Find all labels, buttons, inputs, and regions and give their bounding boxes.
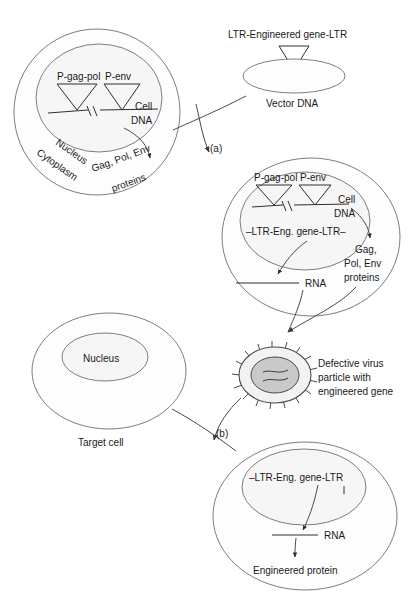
producer-proteins-line2: Pol, Env — [344, 258, 381, 269]
virus-caption-line1: Defective virus — [318, 358, 384, 369]
producer-cell-nucleus — [240, 172, 370, 270]
vector-dna-label: Vector DNA — [266, 98, 319, 109]
producer-proteins-line3: proteins — [344, 272, 380, 283]
target-nucleus-label: Nucleus — [83, 353, 119, 364]
process-diagram-svg: P-gag-pol P-env Cell DNA Nucleus Cytopla… — [0, 0, 411, 594]
cell-dna-label-line1: Cell — [135, 101, 152, 112]
virus-caption-line3: engineered gene — [318, 386, 394, 397]
producer-cell-dna-line1: Cell — [338, 194, 355, 205]
packaging-to-vector-curve — [173, 96, 246, 130]
figure-canvas: P-gag-pol P-env Cell DNA Nucleus Cytopla… — [0, 0, 411, 594]
transduced-cell-group: –LTR-Eng. gene-LTR RNA Engineered protei… — [213, 442, 397, 590]
step-a-arrow — [196, 104, 209, 152]
vector-dna-plasmid — [243, 59, 345, 93]
target-cell-group: Nucleus Target cell — [32, 313, 186, 448]
packaging-cell-nucleus — [36, 44, 162, 152]
integrated-vector-label: –LTR-Eng. gene-LTR– — [246, 226, 346, 237]
step-b-label: (b) — [216, 428, 228, 439]
target-cell-label: Target cell — [78, 437, 124, 448]
p-gag-pol-label: P-gag-pol — [57, 71, 100, 82]
producer-rna-label: RNA — [305, 278, 326, 289]
step-a-label: (a) — [210, 143, 222, 154]
p-env-label: P-env — [105, 71, 131, 82]
step-a-group: (a) — [173, 96, 246, 154]
cell-dna-label-line2: DNA — [131, 115, 152, 126]
virus-particle-group: Defective virus particle with engineered… — [232, 341, 394, 409]
engineered-protein-label: Engineered protein — [253, 565, 338, 576]
packaging-cell-group: P-gag-pol P-env Cell DNA Nucleus Cytopla… — [14, 29, 180, 195]
producer-cell-group: P-gag-pol P-env Cell DNA –LTR-Eng. gene-… — [222, 158, 400, 332]
producer-proteins-line1: Gag, — [355, 244, 377, 255]
step-b-group: (b) — [172, 398, 241, 451]
transduced-rna-label: RNA — [324, 530, 345, 541]
virus-caption-line2: particle with — [318, 372, 371, 383]
vector-dna-group: LTR-Engineered gene-LTR Vector DNA — [228, 29, 347, 109]
transduced-cell-nucleus — [242, 449, 366, 525]
producer-p-env-label: P-env — [300, 172, 326, 183]
ltr-engineered-gene-ltr-label: LTR-Engineered gene-LTR — [228, 29, 347, 40]
producer-p-gag-pol-label: P-gag-pol — [254, 172, 297, 183]
transduced-integrated-vector-label: –LTR-Eng. gene-LTR — [249, 472, 343, 483]
producer-cell-dna-line2: DNA — [334, 208, 355, 219]
virus-capsid-core — [251, 357, 299, 393]
